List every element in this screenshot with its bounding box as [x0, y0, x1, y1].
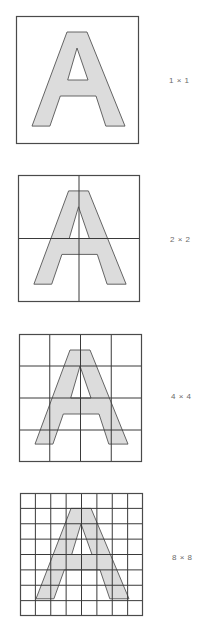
panel-4x4	[19, 334, 142, 462]
label-4x4: 4 × 4	[171, 393, 192, 401]
glyph-a-outline	[32, 32, 125, 126]
glyph-a-grid-8x8	[20, 493, 143, 617]
panel-2x2	[18, 175, 140, 302]
glyph-a-grid-1x1	[16, 16, 139, 144]
glyph-a-outline	[34, 191, 126, 284]
label-8x8: 8 × 8	[172, 554, 193, 562]
panel-1x1	[16, 16, 139, 144]
glyph-a-grid-2x2	[18, 175, 140, 302]
glyph-a-grid-4x4	[19, 334, 142, 462]
label-2x2: 2 × 2	[170, 236, 191, 244]
panel-8x8	[20, 493, 143, 617]
label-1x1: 1 × 1	[169, 77, 190, 85]
